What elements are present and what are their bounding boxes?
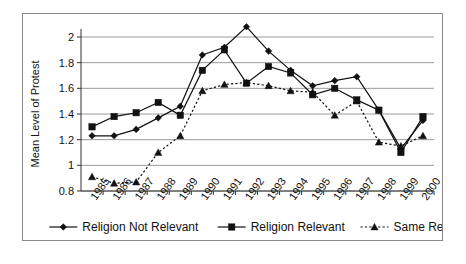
data-point-diamond — [111, 133, 118, 140]
x-tick-label: 1988 — [154, 175, 178, 202]
x-tick-label: 1997 — [353, 175, 377, 202]
y-tick-label: 1.4 — [59, 108, 74, 120]
data-point-diamond — [133, 126, 140, 133]
data-point-square — [287, 70, 293, 76]
data-point-square — [420, 113, 426, 119]
x-tick-label: 1998 — [375, 175, 399, 202]
legend-item-0: Religion Not Relevant — [49, 220, 199, 234]
data-point-triangle — [177, 132, 184, 138]
data-point-triangle — [419, 132, 426, 138]
y-tick-label: 2 — [68, 31, 74, 43]
y-tick-label: 1.6 — [59, 82, 74, 94]
chart-legend: Religion Not RelevantReligion RelevantSa… — [49, 220, 442, 234]
chart-figure: 0.811.21.41.61.82 1985198619871988198919… — [0, 0, 466, 264]
series-group — [88, 23, 426, 186]
data-point-square — [398, 149, 404, 155]
x-axis: 1985198619871988198919901991199219931994… — [81, 175, 442, 202]
data-point-square — [177, 112, 183, 118]
x-tick-label: 1989 — [176, 175, 200, 202]
series-line — [92, 27, 423, 149]
data-point-square — [265, 63, 271, 69]
data-point-diamond — [353, 73, 360, 80]
data-point-triangle — [88, 173, 95, 179]
data-point-square — [221, 47, 227, 53]
y-tick-label: 1.8 — [59, 57, 74, 69]
data-point-square — [111, 113, 117, 119]
data-point-square — [199, 67, 205, 73]
x-tick-label: 1992 — [242, 175, 266, 202]
x-tick-label: 1999 — [397, 175, 421, 202]
x-tick-label: 1991 — [220, 175, 244, 202]
data-point-triangle — [110, 180, 117, 186]
data-point-square — [376, 107, 382, 113]
data-point-square — [332, 85, 338, 91]
series-line — [92, 83, 423, 184]
x-tick-label: 1996 — [331, 175, 355, 202]
data-point-diamond — [331, 77, 338, 84]
data-point-triangle — [371, 223, 378, 229]
data-point-diamond — [177, 103, 184, 110]
legend-item-1: Religion Relevant — [218, 220, 346, 234]
data-point-diamond — [60, 224, 67, 231]
y-tick-label: 0.8 — [59, 185, 74, 197]
legend-label: Religion Relevant — [251, 220, 346, 234]
line-chart: 0.811.21.41.61.82 1985198619871988198919… — [23, 14, 442, 240]
x-tick-label: 1993 — [264, 175, 288, 202]
y-axis-title: Mean Level of Protest — [29, 60, 41, 167]
x-tick-label: 2000 — [419, 175, 442, 202]
y-tick-label: 1 — [68, 159, 74, 171]
data-point-square — [229, 224, 235, 230]
legend-label: Religion Not Relevant — [82, 220, 199, 234]
data-point-diamond — [89, 133, 96, 140]
legend-label: Same Religion — [394, 220, 443, 234]
series-0 — [89, 23, 427, 152]
x-tick-label: 1995 — [308, 175, 332, 202]
x-tick-label: 1990 — [198, 175, 222, 202]
x-tick-label: 1986 — [110, 175, 134, 202]
data-point-square — [155, 99, 161, 105]
x-tick-label: 1994 — [286, 175, 310, 202]
data-point-diamond — [199, 52, 206, 59]
y-tick-label: 1.2 — [59, 134, 74, 146]
data-point-diamond — [155, 115, 162, 122]
legend-item-2: Same Religion — [361, 220, 443, 234]
data-point-square — [133, 110, 139, 116]
y-axis: 0.811.21.41.61.82 — [59, 29, 81, 197]
series-2 — [88, 79, 426, 186]
chart-plot-frame: 0.811.21.41.61.82 1985198619871988198919… — [22, 13, 443, 241]
data-point-square — [89, 124, 95, 130]
